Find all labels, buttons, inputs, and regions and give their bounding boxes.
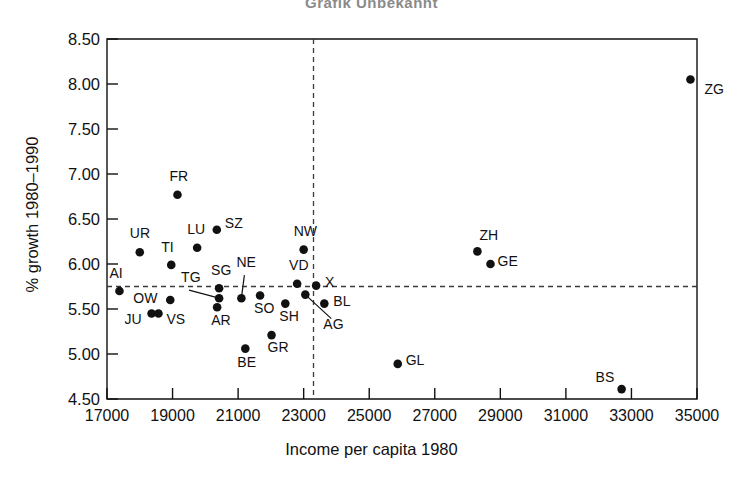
y-axis-tick-label: 8.00 <box>36 76 100 93</box>
x-axis-tick-label: 25000 <box>334 408 404 424</box>
point-label-BE: BE <box>237 355 256 369</box>
y-axis-tick-label: 7.00 <box>36 166 100 183</box>
data-point-SZ <box>213 226 222 235</box>
point-label-X: X <box>325 275 334 289</box>
data-point-NW <box>299 245 308 254</box>
point-label-ZH: ZH <box>479 228 498 242</box>
point-label-NE: NE <box>236 255 255 269</box>
data-point-AI <box>115 287 124 296</box>
data-point-GE <box>486 260 495 269</box>
data-point-VS <box>154 309 163 318</box>
data-point-TI <box>167 261 176 270</box>
point-label-TI: TI <box>161 240 173 254</box>
data-point-VD <box>293 280 302 289</box>
data-point-SO <box>256 291 265 300</box>
point-label-SZ: SZ <box>225 216 243 230</box>
plot-frame <box>107 39 697 399</box>
point-label-ZG: ZG <box>704 82 723 96</box>
y-axis-tick-label: 7.50 <box>36 121 100 138</box>
data-point-LU <box>193 244 202 253</box>
point-label-NW: NW <box>294 224 317 238</box>
point-label-OW: OW <box>133 291 157 305</box>
y-axis-tick-label: 5.50 <box>36 301 100 318</box>
point-label-SG: SG <box>211 263 231 277</box>
data-point-GL <box>393 360 402 369</box>
x-axis-tick-label: 23000 <box>269 408 339 424</box>
data-point-UR <box>135 248 144 257</box>
data-point-BL <box>320 299 329 308</box>
y-axis-tick-label: 8.50 <box>36 31 100 48</box>
y-axis-tick-label: 6.00 <box>36 256 100 273</box>
point-label-SH: SH <box>279 309 298 323</box>
point-label-GL: GL <box>406 353 425 367</box>
data-point-OW <box>166 296 175 305</box>
data-point-AR <box>213 303 222 312</box>
x-axis-tick-label: 27000 <box>400 408 470 424</box>
leader-line-AG <box>305 295 331 319</box>
data-point-SG <box>215 284 224 293</box>
x-axis-tick-label: 35000 <box>662 408 732 424</box>
point-label-AR: AR <box>211 313 230 327</box>
data-point-BS <box>617 385 626 394</box>
data-point-ZH <box>473 247 482 256</box>
data-point-FR <box>173 190 182 199</box>
point-label-JU: JU <box>125 312 142 326</box>
x-axis-tick-label: 31000 <box>531 408 601 424</box>
x-axis-tick-label: 17000 <box>72 408 142 424</box>
point-label-AI: AI <box>109 266 122 280</box>
x-axis-tick-label: 19000 <box>138 408 208 424</box>
point-label-BL: BL <box>333 294 350 308</box>
y-axis-tick-label: 5.00 <box>36 346 100 363</box>
x-axis-tick-label: 29000 <box>465 408 535 424</box>
y-axis-tick-label: 4.50 <box>36 391 100 408</box>
leader-line-TG <box>189 290 219 298</box>
scatter-chart: Grafik Unbekannt % growth 1980–1990 Inco… <box>0 0 743 481</box>
data-point-BE <box>241 344 250 353</box>
point-label-AG: AG <box>323 317 343 331</box>
x-axis-tick-label: 33000 <box>596 408 666 424</box>
point-label-SO: SO <box>254 301 274 315</box>
y-axis-tick-label: 6.50 <box>36 211 100 228</box>
data-point-ZG <box>686 75 695 84</box>
data-point-SH <box>281 299 290 308</box>
point-label-TG: TG <box>181 270 200 284</box>
data-point-X <box>312 281 321 290</box>
x-axis-tick-label: 21000 <box>203 408 273 424</box>
point-label-VS: VS <box>166 312 185 326</box>
point-label-UR: UR <box>130 226 150 240</box>
point-label-GR: GR <box>268 340 289 354</box>
point-label-LU: LU <box>187 222 205 236</box>
point-label-GE: GE <box>498 254 518 268</box>
point-label-BS: BS <box>596 370 615 384</box>
point-label-FR: FR <box>169 169 188 183</box>
point-label-VD: VD <box>289 258 308 272</box>
